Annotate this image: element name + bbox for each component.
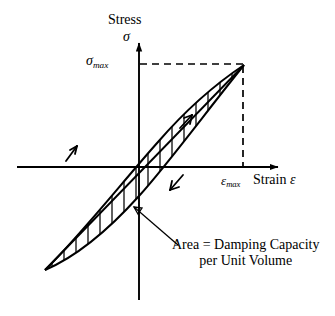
arrowhead-loading-up: [66, 146, 77, 161]
sigma-max-subscript: max: [93, 60, 108, 70]
y-axis-title: Stress: [108, 12, 141, 28]
damping-area-hatching: [52, 0, 232, 316]
damping-area-annotation-line2: per Unit Volume: [172, 253, 319, 269]
sigma-max-label: σmax: [86, 53, 108, 70]
hysteresis-loop-figure: Stress σ σmax εmax Strain ε Area = Dampi…: [0, 0, 335, 316]
x-axis-title-word: Strain: [253, 172, 286, 187]
hysteresis-diagram-svg: [0, 0, 335, 316]
epsilon-max-label: εmax: [221, 174, 240, 190]
x-axis-symbol: ε: [290, 172, 296, 187]
sigma-max-base: σ: [86, 53, 93, 68]
y-axis-symbol: σ: [123, 29, 130, 45]
damping-area-annotation-line1: Area = Damping Capacity: [172, 237, 319, 252]
epsilon-max-subscript: max: [226, 179, 240, 189]
arrowhead-unloading-down: [170, 175, 183, 190]
damping-area-annotation: Area = Damping Capacityper Unit Volume: [172, 237, 319, 268]
x-axis-title: Strain ε: [253, 172, 295, 188]
